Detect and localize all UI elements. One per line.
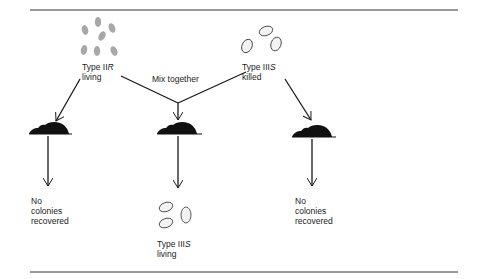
mouse-right-icon [292, 125, 336, 137]
input-left-label: Type IIR living [82, 62, 114, 82]
mouse-middle-icon [157, 122, 202, 134]
arrow-iiis-to-right-mouse [285, 79, 311, 120]
type-iiis-living-bacteria-icon [158, 200, 191, 229]
mix-together-label: Mix together [152, 74, 199, 84]
outcome-left-label: No colonies recovered [31, 196, 69, 226]
input-right-label: Type IIIS killed [242, 62, 276, 82]
type-iiis-killed-bacteria-icon [240, 24, 284, 54]
mouse-left-icon [29, 122, 72, 134]
type-iir-living-bacteria-icon [80, 17, 119, 57]
outcome-middle-label: Type IIIS living [157, 239, 191, 259]
arrow-iir-to-left-mouse [56, 79, 80, 121]
griffith-experiment-diagram: Type IIR living Type IIIS killed Mix tog… [0, 0, 477, 279]
outcome-right-label: No colonies recovered [295, 196, 333, 226]
